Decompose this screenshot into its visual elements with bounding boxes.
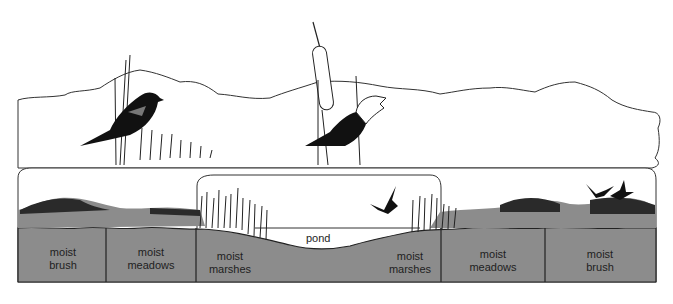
zone-label-moist-brush-left: moist brush xyxy=(38,246,88,272)
zone-label-moist-marshes-left: moist marshes xyxy=(200,250,260,276)
zone-label-moist-meadows-right: moist meadows xyxy=(463,248,523,274)
zone-label-line2: meadows xyxy=(463,261,523,274)
zone-label-line2: brush xyxy=(38,259,88,272)
zone-label-line1: moist xyxy=(380,250,440,263)
zone-label-line1: moist xyxy=(575,248,625,261)
zone-label-moist-marshes-right: moist marshes xyxy=(380,250,440,276)
zone-label-line2: marshes xyxy=(380,263,440,276)
zone-label-line1: moist xyxy=(463,248,523,261)
habitat-illustration xyxy=(0,0,673,304)
zone-label-line1: moist xyxy=(200,250,260,263)
zone-label-line2: meadows xyxy=(121,259,181,272)
upper-range-outline xyxy=(18,70,660,168)
zone-label-moist-brush-right: moist brush xyxy=(575,248,625,274)
zone-label-line2: marshes xyxy=(200,263,260,276)
zone-label-line2: brush xyxy=(575,261,625,274)
zone-label-moist-meadows-left: moist meadows xyxy=(121,246,181,272)
zone-label-line1: moist xyxy=(38,246,88,259)
pond-label: pond xyxy=(306,232,330,244)
zone-label-line1: moist xyxy=(121,246,181,259)
